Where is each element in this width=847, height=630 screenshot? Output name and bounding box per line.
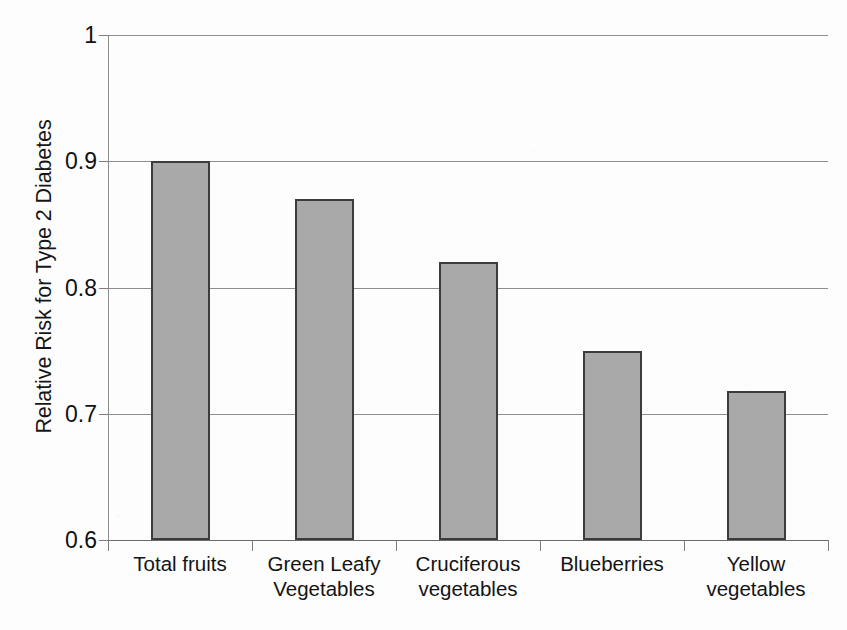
y-tick-label: 0.6 — [65, 527, 97, 554]
bar — [727, 391, 786, 540]
gridline — [108, 161, 828, 162]
x-axis-label: Cruciferousvegetables — [396, 551, 540, 601]
x-axis-label: Total fruits — [108, 551, 252, 576]
x-tick-mark — [684, 540, 685, 551]
y-tick-mark — [99, 414, 108, 415]
x-tick-mark — [540, 540, 541, 551]
y-tick-mark — [99, 540, 108, 541]
y-tick-mark — [99, 35, 108, 36]
y-tick-label: 0.7 — [65, 400, 97, 427]
gridline — [108, 35, 828, 36]
x-axis-label: Blueberries — [540, 551, 684, 576]
x-axis-label: Yellowvegetables — [684, 551, 828, 601]
bar — [439, 262, 498, 540]
bar — [583, 351, 642, 540]
y-tick-label: 1 — [84, 22, 97, 49]
y-tick-mark — [99, 288, 108, 289]
plot-area: 10.90.80.70.6 — [108, 35, 828, 540]
y-tick-label: 0.8 — [65, 274, 97, 301]
x-axis-label: Green LeafyVegetables — [252, 551, 396, 601]
bar — [151, 161, 210, 540]
x-tick-mark — [828, 540, 829, 551]
gridline — [108, 540, 828, 541]
x-tick-mark — [108, 540, 109, 551]
y-axis-title: Relative Risk for Type 2 Diabetes — [32, 67, 57, 487]
x-tick-mark — [396, 540, 397, 551]
bar — [295, 199, 354, 540]
bar-chart-figure: Relative Risk for Type 2 Diabetes 10.90.… — [0, 0, 847, 630]
y-tick-mark — [99, 161, 108, 162]
x-tick-mark — [252, 540, 253, 551]
y-tick-label: 0.9 — [65, 148, 97, 175]
